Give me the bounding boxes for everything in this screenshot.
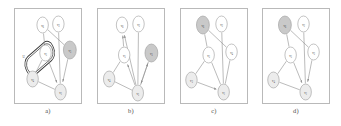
graph-node-v4[interactable]: v4 <box>226 44 237 60</box>
graph-node-v6[interactable]: v6 <box>196 16 209 34</box>
graph-node-v6[interactable]: v6 <box>116 17 127 33</box>
panel-graph-d: v6v2v3v5v4v1 <box>262 8 330 104</box>
graph-edge <box>278 61 287 74</box>
graph-node-v3[interactable]: v3 <box>145 44 158 62</box>
graph-edge <box>138 33 139 85</box>
graph-node-v1[interactable]: v1 <box>218 84 229 100</box>
graph-node-v2[interactable]: v2 <box>133 16 144 32</box>
graph-edge <box>197 82 216 89</box>
graph-edge <box>294 62 302 82</box>
graph-node-v5[interactable]: v5 <box>118 47 129 63</box>
graph-edge <box>141 62 148 84</box>
panel-c: v6v2v4v5v3v1 c) <box>180 8 248 104</box>
panel-graph-a: Uv6v2v3v5v4v1 <box>14 8 82 104</box>
panel-caption-b: b) <box>97 107 165 114</box>
graph-edge <box>222 33 224 84</box>
graph-edge <box>123 36 124 47</box>
graph-node-v5[interactable]: v5 <box>40 45 51 61</box>
graph-node-v1[interactable]: v1 <box>55 84 66 100</box>
graph-edge <box>212 62 221 84</box>
graph-node-v3[interactable]: v3 <box>186 72 197 88</box>
cluster-outline <box>22 38 57 79</box>
graph-edge <box>205 34 207 46</box>
graph-node-v2[interactable]: v2 <box>216 16 227 32</box>
graph-edge <box>287 34 289 46</box>
panel-b: v6v2v3v5v4v1 b) <box>97 8 165 104</box>
graph-edge <box>115 82 132 90</box>
graph-edge <box>128 64 135 85</box>
graph-node-v5[interactable]: v5 <box>285 47 296 63</box>
graph-node-v1[interactable]: v1 <box>300 84 311 100</box>
graph-node-v1[interactable]: v1 <box>132 85 143 101</box>
panel-caption-a: a) <box>14 107 82 114</box>
panel-d: v6v2v3v5v4v1 d) <box>262 8 330 104</box>
panel-graph-b: v6v2v3v5v4v1 <box>97 8 165 104</box>
graph-node-v3[interactable]: v3 <box>308 44 319 60</box>
graph-node-v4[interactable]: v4 <box>103 71 114 87</box>
graph-edge <box>291 30 309 47</box>
panel-graph-c: v6v2v4v5v3v1 <box>180 8 248 104</box>
cluster-label: U <box>23 53 25 59</box>
graph-edge <box>225 60 230 83</box>
graph-edge <box>48 61 57 83</box>
graph-node-v2[interactable]: v2 <box>53 16 64 32</box>
graph-node-v4[interactable]: v4 <box>27 71 38 87</box>
graph-edge <box>113 61 120 72</box>
graph-edge <box>38 82 54 90</box>
panel-a: Uv6v2v3v5v4v1 a) <box>14 8 82 104</box>
graph-edge <box>308 60 312 81</box>
graph-edge <box>304 33 306 84</box>
graph-node-v5[interactable]: v5 <box>203 47 214 63</box>
graph-node-v4[interactable]: v4 <box>268 72 279 88</box>
graph-node-v6[interactable]: v6 <box>37 17 48 33</box>
graph-node-v6[interactable]: v6 <box>278 16 291 34</box>
figure-panels-abcd: Uv6v2v3v5v4v1 a) v6v2v3v5v4v1 b) v6v2v4v… <box>0 0 341 126</box>
graph-edge <box>209 30 227 47</box>
graph-edge <box>196 61 205 74</box>
graph-edge <box>279 82 299 90</box>
panel-caption-c: c) <box>180 107 248 114</box>
panel-caption-d: d) <box>262 107 330 114</box>
graph-edge <box>63 59 68 82</box>
graph-node-v3[interactable]: v3 <box>63 41 76 59</box>
graph-node-v2[interactable]: v2 <box>298 16 309 32</box>
